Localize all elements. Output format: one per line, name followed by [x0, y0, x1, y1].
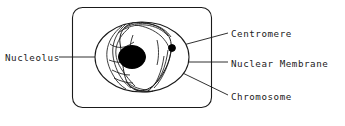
label-nuclear-membrane: Nuclear Membrane [231, 59, 328, 68]
nucleus-diagram-figure: Nucleolus Centromere Nuclear Membrane Ch… [0, 0, 345, 126]
label-centromere: Centromere [231, 29, 292, 38]
label-chromosome: Chromosome [231, 92, 292, 101]
centromere-dot [169, 45, 176, 52]
label-nucleolus: Nucleolus [5, 53, 60, 62]
nucleolus-shape [119, 46, 146, 69]
